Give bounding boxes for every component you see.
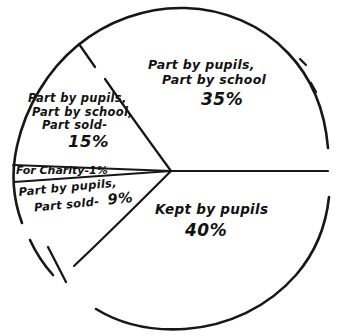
arc-gap-dash-upper: [300, 59, 306, 65]
slice-label-charity-line1: For Charity-1%: [16, 165, 108, 178]
slice-label-15: Part by pupils, Part by school, Part sol…: [28, 92, 133, 151]
slice-percent-15: 15%: [28, 132, 133, 151]
slice-label-15-line3: Part sold-: [28, 119, 133, 133]
slice-label-35-line1: Part by pupils,: [148, 58, 266, 73]
slice-label-charity: For Charity-1%: [16, 165, 108, 178]
arc-tick-126: [79, 44, 95, 67]
slice-label-15-line2: Part by school,: [28, 106, 133, 120]
slice-percent-9: 9%: [107, 189, 134, 207]
slice-label-35: Part by pupils, Part by school 35%: [148, 58, 266, 109]
slice-label-40-line1: Kept by pupils: [155, 202, 268, 218]
slice-percent-40: 40%: [155, 220, 268, 240]
slice-label-15-line1: Part by pupils,: [28, 92, 133, 106]
slice-label-40: Kept by pupils 40%: [155, 202, 268, 240]
pie-chart-figure: Part by pupils, Part by school 35% Part …: [0, 0, 345, 336]
pie-outline-arc-lower-left-stub: [30, 240, 53, 275]
slice-label-35-line2: Part by school: [148, 73, 266, 88]
slice-percent-35: 35%: [148, 89, 266, 109]
arc-tick-216: [48, 247, 66, 282]
